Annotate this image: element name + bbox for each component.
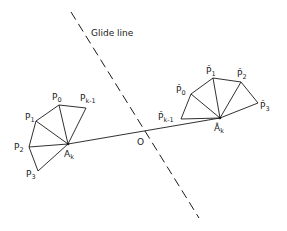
right-spoke-p3: [220, 103, 258, 118]
right-spoke-p2: [220, 82, 241, 118]
label-p2: P2: [14, 142, 24, 154]
glide-reflection-diagram: Glide line O P0 Pk-1 P1 P2 P3 Ak P̂0 P̂1…: [0, 0, 287, 231]
glide-line-label: Glide line: [91, 28, 134, 38]
label-ak-hat: Âk: [214, 122, 224, 135]
label-p0: P0: [52, 92, 62, 104]
label-p1-hat: P̂1: [206, 65, 216, 78]
right-edge-pk1-p0: [181, 94, 191, 119]
label-p0-hat: P̂0: [176, 84, 186, 97]
label-ak: Ak: [64, 149, 74, 161]
center-label-o: O: [137, 137, 144, 147]
glide-line: [71, 12, 199, 218]
label-p1: P1: [25, 112, 35, 124]
right-fan-outline: [191, 78, 258, 103]
label-p3-hat: P̂3: [260, 100, 270, 113]
left-spoke-p2: [29, 144, 68, 147]
apex-point-ak: [67, 143, 70, 146]
label-p3: P3: [26, 169, 36, 181]
left-fan: [29, 105, 86, 171]
right-spoke-p0: [191, 94, 220, 118]
apex-point-ak-hat: [219, 117, 222, 120]
right-fan: [181, 78, 258, 119]
left-fan-outline: [29, 105, 86, 171]
left-spoke-pk1: [68, 108, 86, 144]
label-pk1-hat: P̂k-1: [158, 111, 174, 124]
label-pk1: Pk-1: [80, 93, 96, 105]
right-spoke-p1: [213, 78, 220, 118]
label-p2-hat: P̂2: [237, 68, 247, 81]
